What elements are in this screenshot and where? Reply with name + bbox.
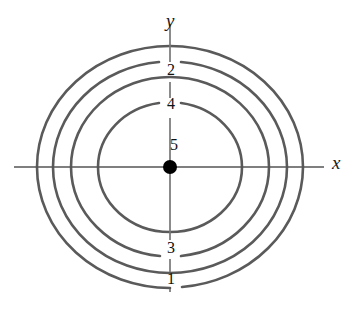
y-axis-label: y bbox=[166, 11, 174, 30]
ring-label-1: 1 bbox=[161, 271, 181, 287]
origin-point-label: 5 bbox=[164, 137, 184, 153]
origin-point bbox=[163, 160, 177, 174]
ring-label-4: 4 bbox=[161, 96, 181, 112]
ring-label-3: 3 bbox=[161, 240, 181, 256]
plot-svg bbox=[0, 0, 356, 310]
figure-canvas: y x 2 4 5 3 1 bbox=[0, 0, 356, 310]
x-axis-label: x bbox=[332, 153, 340, 172]
ring-label-2: 2 bbox=[161, 62, 181, 78]
